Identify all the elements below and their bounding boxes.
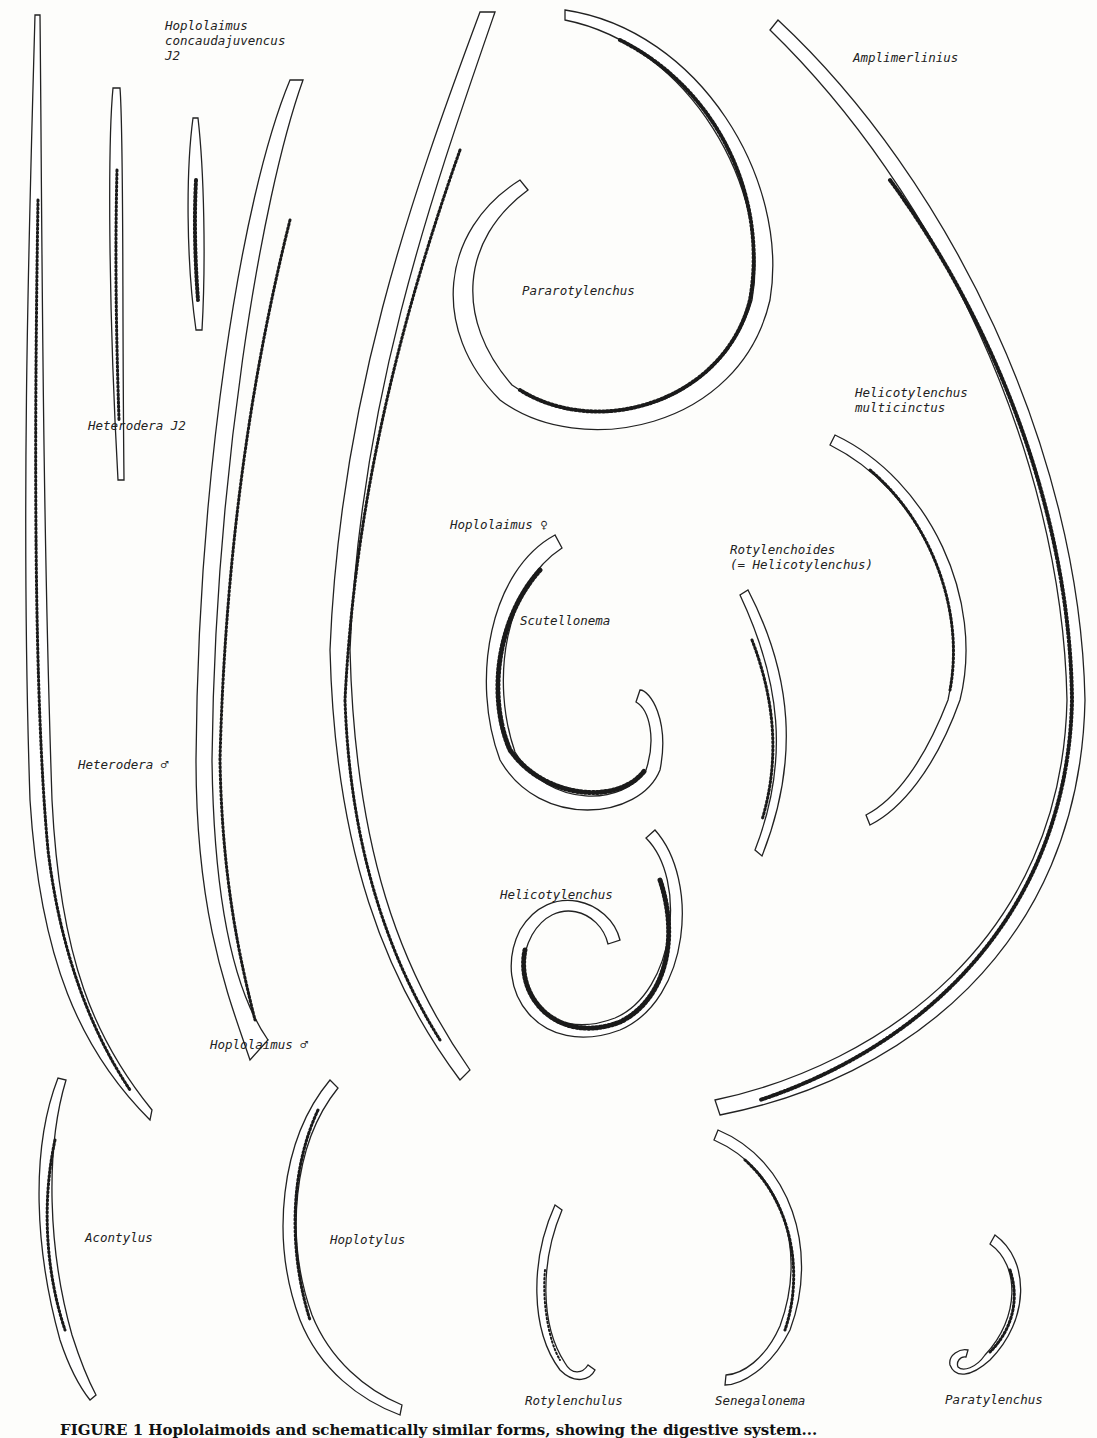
label-helicotylenchus: Helicotylenchus: [500, 887, 613, 902]
rotylenchoides-drawing: [740, 590, 786, 856]
nematode-illustrations: [0, 0, 1097, 1438]
label-hoplotylus: Hoplotylus: [330, 1232, 405, 1247]
label-acontylus: Acontylus: [85, 1230, 153, 1245]
helicotylenchus-drawing: [511, 830, 682, 1037]
hoplolaimus-male-drawing: [196, 80, 303, 1060]
label-scutellonema: Scutellonema: [520, 613, 610, 628]
hoplolaimus-female-drawing: [330, 12, 495, 1080]
label-helicotylenchus-multicinctus: Helicotylenchus multicinctus: [855, 385, 968, 415]
rotylenchulus-drawing: [537, 1205, 595, 1379]
label-amplimerlinius: Amplimerlinius: [853, 50, 958, 65]
hoplotylus-drawing: [283, 1080, 402, 1415]
label-hoplolaimus-concaudajuvencus-j2: Hoplolaimus concaudajuvencus J2: [165, 18, 285, 63]
scutellonema-drawing: [486, 535, 662, 810]
hoplolaimus-j2-drawing: [188, 118, 204, 330]
heterodera-male-drawing: [26, 15, 152, 1120]
label-pararotylenchus: Pararotylenchus: [522, 283, 635, 298]
label-senegalonema: Senegalonema: [715, 1393, 805, 1408]
label-hoplolaimus-female: Hoplolaimus ♀: [450, 517, 548, 532]
figure-caption: FIGURE 1 Hoplolaimoids and schematically…: [60, 1421, 817, 1438]
helicotylenchus-multicinctus-drawing: [830, 435, 966, 825]
label-heterodera-j2: Heterodera J2: [88, 418, 186, 433]
senegalonema-drawing: [714, 1130, 802, 1385]
pararotylenchus-drawing: [453, 10, 773, 430]
label-rotylenchoides: Rotylenchoides (= Helicotylenchus): [730, 542, 873, 572]
label-rotylenchulus: Rotylenchulus: [525, 1393, 623, 1408]
paratylenchus-drawing: [950, 1235, 1021, 1374]
label-paratylenchus: Paratylenchus: [945, 1392, 1043, 1407]
label-hoplolaimus-male: Hoplolaimus ♂: [210, 1037, 308, 1052]
label-heterodera-male: Heterodera ♂: [78, 757, 168, 772]
